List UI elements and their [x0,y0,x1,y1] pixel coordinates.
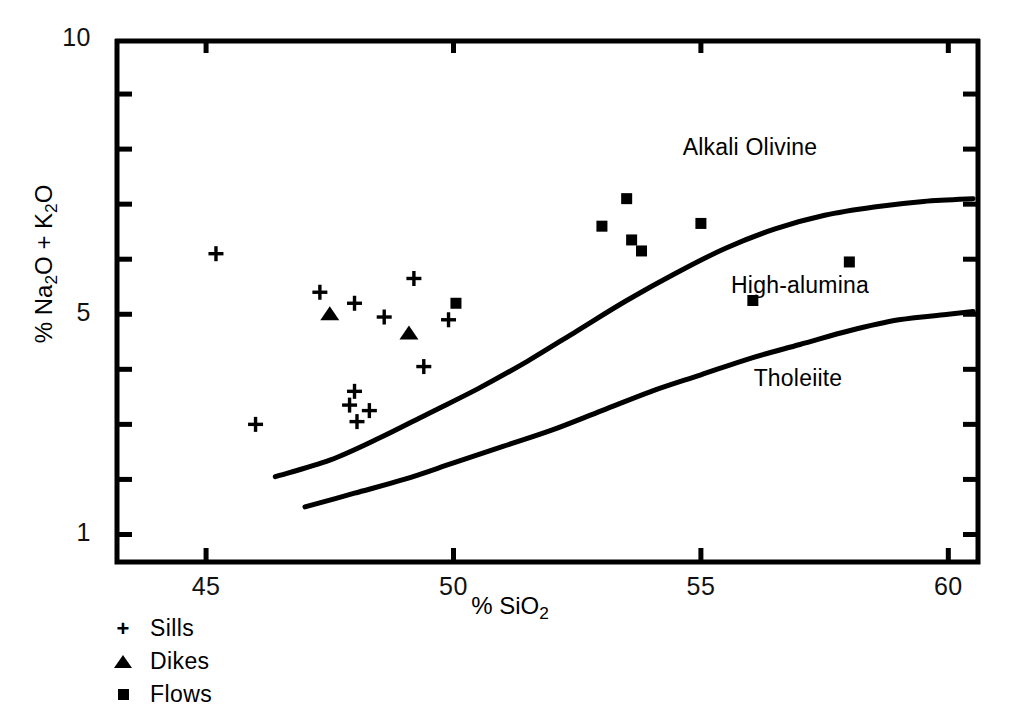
marker-plus-sills [248,417,263,432]
legend-label: Flows [150,681,212,708]
boundary-curves [275,199,973,507]
legend-label: Dikes [150,648,210,675]
marker-plus-sills [349,414,364,429]
marker-triangle-dikes [399,326,418,340]
y-axis-title-prefix: % Na [30,285,57,344]
marker-square-flows [621,193,632,204]
marker-plus-sills [377,310,392,325]
marker-plus-sills [416,359,431,374]
y-tick-label-10: 10 [0,23,91,52]
marker-plus-sills [347,384,362,399]
y-axis-title-sub2: 2 [41,203,61,213]
y-axis-title-sub1: 2 [41,275,61,285]
x-axis-title-sub: 2 [539,603,549,623]
marker-plus-sills [208,246,223,261]
marker-plus-sills [347,296,362,311]
axis-ticks [117,39,978,562]
y-tick-label-1: 1 [0,518,91,547]
x-tick-label-55: 55 [671,572,731,601]
marker-square-flows [636,245,647,256]
marker-square-flows [695,218,706,229]
x-tick-label-60: 60 [918,572,978,601]
marker-triangle-dikes [320,306,339,320]
x-axis-title: % SiO2 [400,592,620,624]
legend-item-sills: +Sills [106,612,212,645]
chart-legend: +SillsDikesFlows [106,612,212,711]
y-axis-title-mid: O + K [30,213,57,275]
marker-plus-sills [441,312,456,327]
y-axis-title-suffix: O [30,185,57,204]
data-points [208,193,854,432]
plus-icon: + [106,618,140,640]
triangle-icon [106,655,140,668]
marker-square-flows [844,256,855,267]
x-tick-label-45: 45 [176,572,236,601]
square-icon [106,689,140,700]
high-alumina-tholeiite-boundary [305,312,973,507]
marker-square-flows [596,221,607,232]
y-axis-title: % Na2O + K2O [30,114,62,414]
axis-frame [115,39,980,562]
marker-square-flows [626,234,637,245]
field-label-alkali-olivine: Alkali Olivine [683,134,817,161]
field-label-tholeiite: Tholeiite [754,365,843,392]
legend-item-dikes: Dikes [106,645,212,678]
marker-plus-sills [362,403,377,418]
marker-plus-sills [342,398,357,413]
marker-plus-sills [312,285,327,300]
field-label-high-alumina: High-alumina [731,272,869,299]
x-axis-title-prefix: % SiO [471,592,539,619]
chart-figure: 10 5 1 45505560 % Na2O + K2O % SiO2 Alka… [0,0,1012,719]
marker-plus-sills [406,271,421,286]
legend-item-flows: Flows [106,678,212,711]
marker-square-flows [450,298,461,309]
legend-label: Sills [150,615,194,642]
alkali-olivine-high-alumina-boundary [275,199,973,477]
